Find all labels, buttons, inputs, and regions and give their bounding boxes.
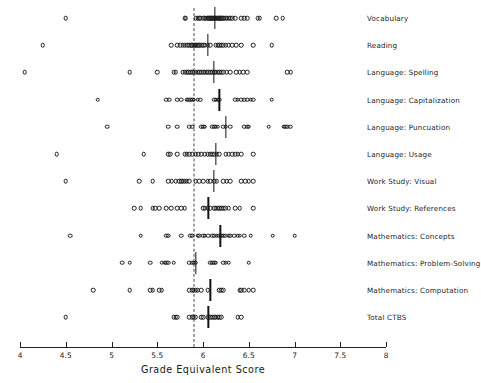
data-point	[226, 206, 231, 211]
data-point	[120, 261, 125, 266]
median-marker	[214, 7, 215, 29]
category-label: Language: Puncuation	[367, 122, 450, 131]
data-point	[63, 315, 68, 320]
data-point	[63, 16, 68, 21]
x-axis-tick-label: 7.5	[334, 351, 346, 360]
data-point	[193, 315, 198, 320]
median-marker	[225, 116, 226, 138]
data-point	[270, 233, 275, 238]
data-point	[237, 206, 242, 211]
data-point	[215, 125, 220, 130]
data-point	[175, 152, 180, 157]
data-point	[175, 315, 180, 320]
median-marker	[213, 61, 214, 83]
data-point	[221, 288, 226, 293]
data-point	[219, 315, 224, 320]
data-point	[251, 179, 256, 184]
data-point	[183, 16, 188, 21]
category-label: Mathematics: Concepts	[367, 231, 455, 240]
data-point	[179, 233, 184, 238]
data-point	[190, 125, 195, 130]
x-axis-tick	[66, 342, 67, 347]
data-point	[228, 125, 233, 130]
data-point	[251, 97, 256, 102]
x-axis-line	[20, 347, 386, 348]
data-point	[217, 152, 222, 157]
x-axis-tick	[203, 342, 204, 347]
data-point	[171, 261, 176, 266]
data-point	[128, 288, 133, 293]
data-point	[175, 125, 180, 130]
data-point	[141, 152, 146, 157]
category-label: Mathematics: Computation	[367, 286, 468, 295]
x-axis-tick	[340, 342, 341, 347]
data-point	[274, 16, 279, 21]
data-point	[137, 179, 142, 184]
data-point	[214, 179, 219, 184]
data-point	[239, 43, 244, 48]
data-point	[269, 97, 274, 102]
data-point	[199, 288, 204, 293]
data-point	[179, 97, 184, 102]
data-point	[198, 97, 203, 102]
data-point	[203, 125, 208, 130]
data-point	[289, 70, 294, 75]
category-label: Mathematics: Problem-Solving	[367, 258, 481, 267]
data-point	[168, 152, 173, 157]
data-point	[155, 70, 160, 75]
data-point	[160, 288, 165, 293]
x-axis-tick	[112, 342, 113, 347]
x-axis-tick	[386, 342, 387, 347]
data-point	[251, 206, 256, 211]
data-point	[288, 125, 293, 130]
x-axis-tick-label: 8	[384, 351, 389, 360]
median-marker	[220, 225, 221, 247]
median-marker	[208, 306, 209, 328]
data-point	[251, 288, 256, 293]
x-axis-tick-label: 7	[292, 351, 297, 360]
category-label: Work Study: Visual	[367, 177, 437, 186]
category-label: Reading	[367, 41, 397, 50]
x-axis-tick	[249, 342, 250, 347]
data-point	[190, 233, 195, 238]
data-point	[138, 206, 143, 211]
x-axis-tick-label: 6	[201, 351, 206, 360]
data-point	[54, 152, 59, 157]
category-label: Language: Usage	[367, 150, 432, 159]
data-point	[167, 97, 172, 102]
data-point	[173, 70, 178, 75]
data-point	[257, 16, 262, 21]
data-point	[292, 233, 297, 238]
data-point	[187, 179, 192, 184]
data-point	[63, 179, 68, 184]
data-point	[214, 261, 219, 266]
data-point	[269, 43, 274, 48]
data-point	[91, 288, 96, 293]
data-point	[150, 288, 155, 293]
x-axis-tick-label: 5.5	[151, 351, 163, 360]
median-marker	[195, 252, 196, 274]
data-point	[105, 125, 110, 130]
data-point	[228, 179, 233, 184]
data-point	[166, 233, 171, 238]
median-marker	[219, 89, 220, 111]
data-point	[169, 206, 174, 211]
data-point	[68, 233, 73, 238]
data-point	[234, 43, 239, 48]
data-point	[166, 125, 171, 130]
x-axis-tick-label: 4.5	[60, 351, 72, 360]
data-point	[148, 261, 153, 266]
x-axis-title: Grade Equivalent Score	[141, 364, 265, 375]
data-point	[95, 97, 100, 102]
data-point	[150, 179, 155, 184]
data-point	[267, 125, 272, 130]
data-point	[245, 16, 250, 21]
data-point	[239, 315, 244, 320]
x-axis-tick-label: 4	[18, 351, 23, 360]
data-point	[233, 16, 238, 21]
x-axis-tick-label: 5	[109, 351, 114, 360]
x-axis-tick	[157, 342, 158, 347]
data-point	[246, 125, 251, 130]
data-point	[239, 152, 244, 157]
category-label: Total CTBS	[367, 313, 406, 322]
